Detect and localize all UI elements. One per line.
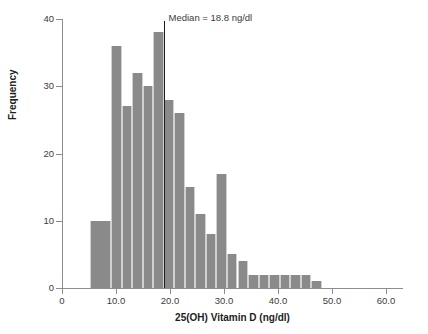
- plot-area: 010203040 010.020.030.040.050.060.0 Medi…: [0, 0, 428, 334]
- histogram-figure: 010203040 010.020.030.040.050.060.0 Medi…: [0, 0, 428, 334]
- median-line: [164, 21, 165, 288]
- histogram-bar: [238, 261, 249, 288]
- histogram-bar: [174, 113, 185, 288]
- histogram-bar: [164, 100, 175, 288]
- histogram-bar: [132, 73, 143, 288]
- histogram-bar: [122, 106, 133, 288]
- histogram-bar: [311, 281, 322, 288]
- x-axis-title: 25(OH) Vitamin D (ng/dl): [62, 312, 403, 323]
- histogram-bar: [206, 234, 217, 288]
- histogram-bar: [301, 275, 312, 288]
- histogram-bar: [269, 275, 280, 288]
- histogram-bar: [111, 46, 122, 288]
- histogram-bar: [280, 275, 291, 288]
- median-annotation-label: Median = 18.8 ng/dl: [169, 13, 253, 23]
- histogram-bar: [195, 214, 206, 288]
- histogram-bar: [227, 254, 238, 288]
- histogram-bar: [216, 174, 227, 288]
- histogram-bar: [290, 275, 301, 288]
- histogram-bar: [248, 275, 259, 288]
- histogram-bar: [259, 275, 270, 288]
- histogram-bars: [0, 0, 428, 334]
- histogram-bar: [143, 86, 154, 288]
- histogram-bar: [153, 32, 164, 288]
- histogram-bar: [90, 221, 111, 288]
- y-axis-title: Frequency: [8, 69, 18, 120]
- histogram-bar: [185, 187, 196, 288]
